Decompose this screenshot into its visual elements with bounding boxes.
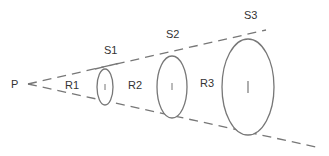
distance-label-r2: R2	[128, 79, 142, 91]
surface-label-s3: S3	[244, 9, 257, 21]
distance-label-r1: R1	[65, 79, 79, 91]
source-label: P	[11, 78, 18, 90]
cone-diagram: P R1 R2 R3 S1 S2 S3	[0, 0, 329, 156]
surface-label-s1: S1	[104, 44, 117, 56]
surface-s1	[97, 69, 113, 105]
distance-label-r3: R3	[200, 77, 214, 89]
surface-s3	[222, 39, 274, 135]
surface-s2	[157, 56, 187, 118]
surface-label-s2: S2	[166, 28, 179, 40]
